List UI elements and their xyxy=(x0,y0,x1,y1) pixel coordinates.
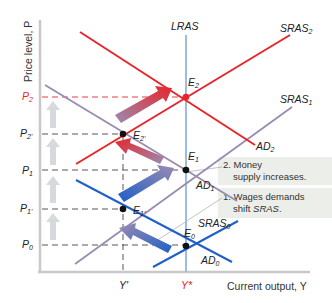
tick-p2prime: P2' xyxy=(20,127,33,140)
up-arrow-icon xyxy=(46,138,60,165)
tick-p0: P0 xyxy=(22,238,33,251)
label-e1prime: E1' xyxy=(133,204,146,217)
price-rise-arrows xyxy=(46,101,60,240)
label-e1: E1 xyxy=(188,150,199,163)
tick-ystar: Y* xyxy=(181,279,193,291)
label-sras2: SRAS2 xyxy=(280,22,313,35)
ad-as-diagram: 2. Money supply increases. 1. Wages dema… xyxy=(0,0,332,303)
annotation-wage-demands: 1. Wages demands shift SRAS. xyxy=(218,188,332,218)
label-sras1: SRAS1 xyxy=(280,93,313,106)
label-sras0: SRAS0 xyxy=(198,217,231,230)
sras1-curve xyxy=(75,107,292,264)
tick-p2: P2 xyxy=(22,90,33,103)
note1-line2: shift SRAS. xyxy=(233,203,282,214)
label-e2: E2 xyxy=(188,76,199,89)
label-lras: LRAS xyxy=(171,20,198,32)
equilibrium-e0 xyxy=(183,243,190,250)
sras-shift-arrow-1 xyxy=(119,223,172,253)
x-axis-title: Current output, Y xyxy=(227,280,307,292)
ad-shift-arrow-1 xyxy=(118,165,174,202)
up-arrow-icon xyxy=(46,176,60,203)
y-axis-title: Price level, P xyxy=(22,21,34,82)
up-arrow-icon xyxy=(46,101,60,128)
equilibrium-e1 xyxy=(183,167,190,174)
tick-p1prime: P1' xyxy=(20,202,33,215)
label-e0: E0 xyxy=(184,227,195,240)
equilibrium-e2prime xyxy=(120,131,127,138)
label-ad0: AD0 xyxy=(200,254,220,267)
note2-line2: supply increases. xyxy=(233,171,306,182)
tick-yprime: Y' xyxy=(119,279,129,291)
tick-p1: P1 xyxy=(22,164,33,177)
ad-shift-arrow-2 xyxy=(115,86,172,123)
label-ad1: AD1 xyxy=(195,179,215,192)
note2-line1: 2. Money xyxy=(223,159,262,170)
label-e2prime: E2' xyxy=(133,129,146,142)
equilibrium-e1prime xyxy=(120,206,127,213)
annotation-money-supply: 2. Money supply increases. xyxy=(218,157,332,185)
label-ad2: AD2 xyxy=(255,140,275,153)
equilibrium-e2 xyxy=(183,94,190,101)
up-arrow-icon xyxy=(46,213,60,240)
